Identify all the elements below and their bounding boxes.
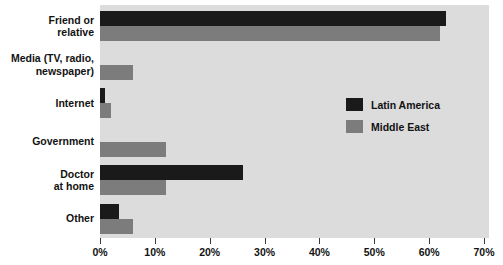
legend-label-latin-america: Latin America bbox=[371, 99, 440, 111]
legend: Latin America Middle East bbox=[346, 96, 440, 140]
bar-middle-east-internet bbox=[100, 103, 111, 118]
legend-item-middle-east: Middle East bbox=[346, 118, 440, 135]
bar-middle-east-government bbox=[100, 142, 166, 157]
legend-item-latin-america: Latin America bbox=[346, 96, 440, 113]
x-axis-tick-60pct bbox=[429, 238, 430, 244]
legend-label-middle-east: Middle East bbox=[371, 121, 429, 133]
x-axis-tick-70pct bbox=[484, 238, 485, 244]
y-axis-label-line: Doctor bbox=[0, 168, 94, 181]
y-axis-label-line: Internet bbox=[0, 97, 94, 110]
x-axis-line bbox=[100, 237, 489, 238]
y-axis-label-line: Media (TV, radio, bbox=[0, 52, 94, 65]
y-axis-label-government: Government bbox=[0, 135, 94, 148]
y-axis-label-line: relative bbox=[0, 26, 94, 39]
y-axis-label-friend-or-relative: Friend orrelative bbox=[0, 14, 94, 39]
x-axis-tick-30pct bbox=[265, 238, 266, 244]
y-axis-label-line: at home bbox=[0, 180, 94, 193]
x-axis-tick-label-50pct: 50% bbox=[351, 246, 397, 258]
y-axis-label-media-tv-radio-newspaper: Media (TV, radio,newspaper) bbox=[0, 52, 94, 77]
y-axis-label-internet: Internet bbox=[0, 97, 94, 110]
x-axis-tick-label-70pct: 70% bbox=[461, 246, 503, 258]
bar-latin-america-other bbox=[100, 204, 119, 219]
legend-swatch-icon-latin-america bbox=[346, 98, 363, 111]
y-axis-label-line: Friend or bbox=[0, 14, 94, 27]
y-axis-label-doctor-at-home: Doctorat home bbox=[0, 168, 94, 193]
y-axis-label-line: Government bbox=[0, 135, 94, 148]
legend-swatch-icon-middle-east bbox=[346, 120, 363, 133]
x-axis-tick-label-20pct: 20% bbox=[187, 246, 233, 258]
bar-middle-east-friend-or-relative bbox=[100, 26, 440, 41]
y-axis-label-other: Other bbox=[0, 212, 94, 225]
x-axis-tick-40pct bbox=[319, 238, 320, 244]
bar-latin-america-internet bbox=[100, 88, 105, 103]
x-axis-tick-label-10pct: 10% bbox=[132, 246, 178, 258]
x-axis-tick-20pct bbox=[210, 238, 211, 244]
x-axis-tick-label-60pct: 60% bbox=[406, 246, 452, 258]
bar-latin-america-friend-or-relative bbox=[100, 11, 446, 26]
x-axis-tick-0pct bbox=[100, 238, 101, 244]
x-axis-tick-label-40pct: 40% bbox=[296, 246, 342, 258]
bar-middle-east-media-tv-radio-newspaper bbox=[100, 65, 133, 80]
y-axis-label-line: newspaper) bbox=[0, 65, 94, 78]
bar-middle-east-doctor-at-home bbox=[100, 180, 166, 195]
bar-middle-east-other bbox=[100, 219, 133, 234]
x-axis-tick-label-0pct: 0% bbox=[77, 246, 123, 258]
x-axis-tick-50pct bbox=[374, 238, 375, 244]
bar-chart: Friend orrelativeMedia (TV, radio,newspa… bbox=[0, 0, 503, 265]
bar-latin-america-doctor-at-home bbox=[100, 165, 243, 180]
y-axis-label-line: Other bbox=[0, 212, 94, 225]
x-axis-tick-label-30pct: 30% bbox=[242, 246, 288, 258]
x-axis-tick-10pct bbox=[155, 238, 156, 244]
